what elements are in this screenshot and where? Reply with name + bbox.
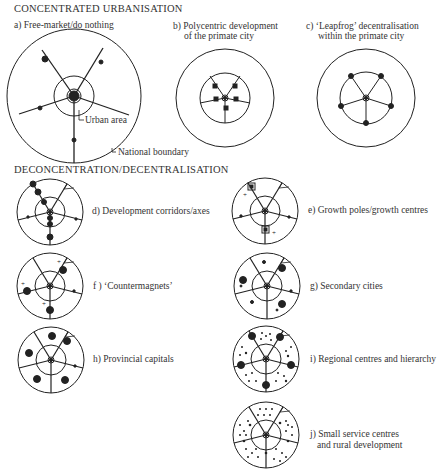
svg-text:+: + [21,280,25,288]
diagram-e-growth-poles: + + [232,178,298,244]
diagram-h-provincial-capitals [18,327,84,393]
svg-text:+: + [57,258,61,266]
diagram-j-small-service-centres [233,402,299,468]
svg-text:+: + [243,191,247,199]
diagram-i-regional-centres [233,326,299,392]
svg-text:+: + [42,300,46,308]
diagram-g-secondary-cities [234,253,300,319]
svg-text:+: + [272,229,276,237]
diagram-canvas: + + + + + [0,0,444,474]
diagram-f-countermagnets: + + + [17,253,83,319]
diagram-b-polycentric [176,49,274,147]
diagram-d-corridors [17,179,83,245]
diagram-a-free-market [7,29,141,163]
diagram-c-leapfrog [317,49,415,147]
